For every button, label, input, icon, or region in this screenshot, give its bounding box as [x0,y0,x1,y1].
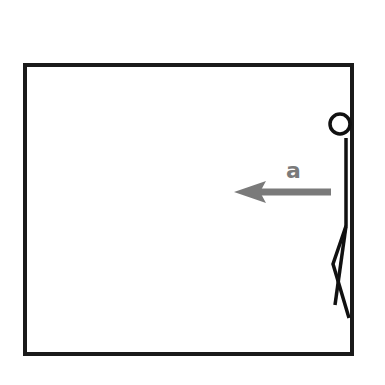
stick-figure [330,114,350,318]
container-box [25,65,352,354]
acceleration-arrow: a [234,158,331,203]
figure-head [330,114,350,134]
acceleration-label: a [286,158,301,183]
diagram-canvas: a [0,0,385,385]
